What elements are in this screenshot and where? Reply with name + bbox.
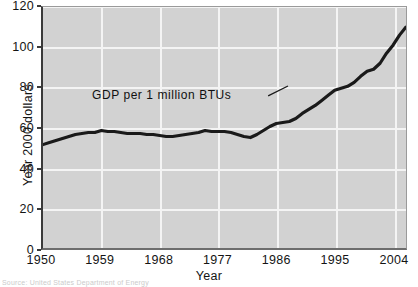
x-axis-tick-label: 1995 [312,254,358,267]
x-axis-tick-label: 2004 [371,254,417,267]
x-axis-tick-label: 1986 [253,254,299,267]
y-axis-tick-label: 120 [0,0,34,13]
source-note: Source: United States Department of Ener… [2,279,149,286]
chart-figure: GDP per 1 million BTUs 020406080100120 Y… [0,0,418,287]
y-axis-tick-label: 100 [0,41,34,54]
x-axis-tick-label: 1968 [136,254,182,267]
annotation-leader-line [268,86,288,96]
annotation-leader-layer [43,7,406,248]
plot-area: GDP per 1 million BTUs [41,6,407,250]
x-axis-tick-label: 1977 [194,254,240,267]
series-annotation-label: GDP per 1 million BTUs [92,88,231,102]
x-axis-tick-label: 1950 [18,254,64,267]
x-axis-tick-label: 1959 [77,254,123,267]
y-axis-title: Year 2000 dollars [21,60,35,210]
